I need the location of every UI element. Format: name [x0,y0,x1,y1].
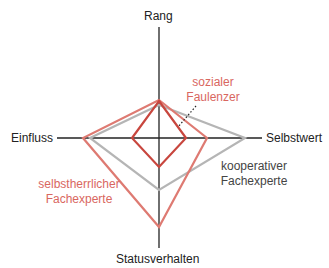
label-sozialer-faulenzer: sozialer Faulenzer [181,75,245,105]
label-line: Fachexperte [212,174,296,189]
axis-label-bottom: Statusverhalten [116,252,199,267]
axis-label-left: Einfluss [11,131,53,146]
axis-label-top: Rang [144,9,173,24]
label-line: kooperativer [212,159,296,174]
label-line: sozialer [181,75,245,90]
axis-label-right: Selbstwert [266,131,322,146]
label-kooperativer-fachexperte: kooperativer Fachexperte [212,159,296,189]
label-line: selbstherrlicher [31,177,127,192]
label-line: Fachexperte [31,192,127,207]
label-selbstherrlicher-fachexperte: selbstherrlicher Fachexperte [31,177,127,207]
label-line: Faulenzer [181,90,245,105]
